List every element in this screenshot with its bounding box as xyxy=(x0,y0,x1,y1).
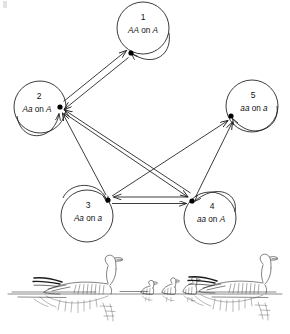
self-loop-node-1 xyxy=(132,33,170,60)
gosling-1 xyxy=(141,280,158,301)
node-2-dot[interactable] xyxy=(57,104,62,109)
nodes-layer: 1 AA on A 2 Aa on A 3 Aa on a xyxy=(14,2,278,244)
self-loop-node-2 xyxy=(17,114,59,136)
node-5-number: 5 xyxy=(251,90,256,100)
node-3[interactable]: 3 Aa on a xyxy=(61,190,113,242)
gosling-2 xyxy=(162,278,180,302)
node-2-number: 2 xyxy=(37,91,42,101)
node-3-dot[interactable] xyxy=(105,197,110,202)
edge-2-4-bidirectional xyxy=(64,110,191,197)
node-4-genotype: aa on A xyxy=(197,215,226,224)
adult-goose-right xyxy=(188,254,278,320)
edge-4-5-directed xyxy=(196,122,233,197)
node-3-genotype: Aa on a xyxy=(73,214,103,223)
node-5-dot[interactable] xyxy=(228,113,233,118)
edge-1-2-bidirectional xyxy=(64,51,129,110)
node-2-genotype: Aa on A xyxy=(21,105,52,114)
node-1-dot[interactable] xyxy=(128,50,133,55)
node-4[interactable]: 4 aa on A xyxy=(184,192,236,244)
node-1-number: 1 xyxy=(141,12,146,22)
waterline xyxy=(8,292,282,298)
node-2[interactable]: 2 Aa on A xyxy=(14,81,66,133)
edge-3-2-directed xyxy=(63,113,107,195)
geese-with-goslings-illustration xyxy=(8,254,282,321)
node-4-dot[interactable] xyxy=(189,198,194,203)
node-4-number: 4 xyxy=(210,201,215,211)
self-loop-node-4 xyxy=(195,192,236,212)
node-1[interactable]: 1 AA on A xyxy=(117,2,169,56)
adult-goose-left xyxy=(33,255,123,321)
node-5-genotype: aa on a xyxy=(240,104,268,113)
node-3-number: 3 xyxy=(86,200,91,210)
node-1-genotype: AA on A xyxy=(127,26,159,35)
edges-layer xyxy=(17,33,277,212)
genetics-mating-diagram: 1 AA on A 2 Aa on A 3 Aa on a xyxy=(0,0,290,334)
node-5[interactable]: 5 aa on a xyxy=(226,80,278,132)
edge-3-4-bidirectional xyxy=(112,197,188,204)
